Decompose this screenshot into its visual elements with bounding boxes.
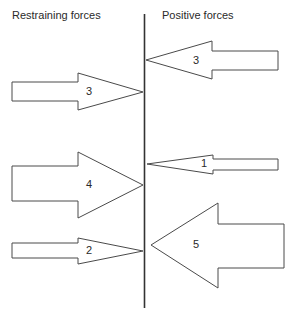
- positive-force-arrow-3: 3: [146, 41, 278, 79]
- restraining-force-label: 3: [86, 85, 92, 97]
- left-arrow-icon: [151, 203, 284, 288]
- positive-force-label: 1: [201, 157, 207, 169]
- right-arrow-icon: [12, 152, 143, 218]
- positive-force-arrow-5: 5: [151, 203, 284, 288]
- restraining-force-label: 4: [86, 178, 92, 190]
- positive-force-label: 5: [193, 238, 199, 250]
- force-field-diagram: Restraining forces Positive forces 3 3 1…: [0, 0, 296, 317]
- right-arrow-icon: [12, 73, 143, 110]
- right-arrow-icon: [12, 238, 143, 264]
- restraining-force-arrow-3: 3: [12, 73, 143, 110]
- left-arrow-icon: [147, 155, 278, 174]
- restraining-force-arrow-4: 4: [12, 152, 143, 218]
- left-arrow-icon: [146, 41, 278, 79]
- positive-force-arrow-1: 1: [147, 155, 278, 174]
- restraining-force-label: 2: [86, 244, 92, 256]
- positive-force-label: 3: [193, 54, 199, 66]
- diagram-canvas: 3 3 1 4 5 2: [0, 0, 296, 317]
- restraining-force-arrow-2: 2: [12, 238, 143, 264]
